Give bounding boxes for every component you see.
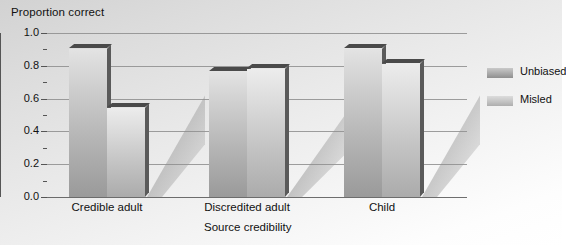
x-axis-category-label: Child: [312, 201, 452, 213]
legend-label-unbiased: Unbiased: [520, 65, 566, 77]
y-axis-minor-tick: [43, 181, 47, 182]
y-axis-tick-label: 0.0: [5, 190, 39, 202]
bar-discredited-adult-misled: [247, 64, 285, 197]
y-axis-minor-tick: [43, 148, 47, 149]
y-axis-tick: [41, 99, 47, 100]
bar-top-face: [344, 44, 387, 48]
y-axis-title: Proportion correct: [11, 6, 104, 18]
gridline: [47, 197, 467, 198]
y-axis-tick-label: 0.8: [5, 59, 39, 71]
bar-top-face: [382, 59, 425, 63]
bar-top-face: [69, 44, 112, 48]
y-axis-tick: [41, 131, 47, 132]
bar-side-face: [145, 104, 149, 197]
bar-face: [344, 49, 382, 197]
y-axis-tick-label: 0.2: [5, 157, 39, 169]
y-axis-tick: [41, 164, 47, 165]
y-axis-tick-label: 0.4: [5, 124, 39, 136]
x-axis-title: Source credibility: [204, 221, 292, 233]
bar-top-face: [107, 103, 150, 107]
bar-face: [107, 108, 145, 197]
bar-credible-adult-misled: [107, 103, 145, 197]
bar-face: [247, 69, 285, 197]
legend-swatch-misled: [487, 96, 513, 106]
bar-top-face: [247, 64, 290, 68]
y-axis-line: [0, 33, 1, 197]
legend-swatch-unbiased: [487, 68, 513, 78]
x-axis-category-label: Discredited adult: [177, 201, 317, 213]
y-axis-tick-label: 1.0: [5, 26, 39, 38]
y-axis-tick: [41, 197, 47, 198]
gridline: [47, 33, 467, 34]
bar-credible-adult-unbiased: [69, 44, 107, 197]
y-axis-tick-label: 0.6: [5, 92, 39, 104]
bar-face: [209, 72, 247, 197]
legend-label-misled: Misled: [520, 93, 552, 105]
bar-child-misled: [382, 59, 420, 197]
bar-discredited-adult-unbiased: [209, 67, 247, 197]
y-axis-tick: [41, 66, 47, 67]
y-axis-minor-tick: [43, 49, 47, 50]
y-axis-minor-tick: [43, 82, 47, 83]
bar-side-face: [285, 64, 289, 197]
y-axis-tick: [41, 33, 47, 34]
x-axis-category-label: Credible adult: [37, 201, 177, 213]
bar-side-face: [420, 59, 424, 197]
bar-face: [69, 49, 107, 197]
bar-child-unbiased: [344, 44, 382, 197]
y-axis-minor-tick: [43, 115, 47, 116]
bar-face: [382, 64, 420, 197]
